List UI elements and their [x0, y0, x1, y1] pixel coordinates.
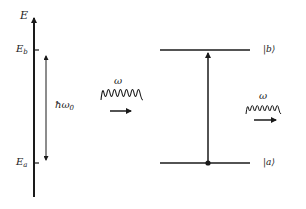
- lower-state-label: |a⟩: [263, 158, 275, 167]
- upper-level-energy-label: Eb: [16, 44, 28, 56]
- electron-dot: [205, 160, 210, 165]
- transition-arrow: [205, 53, 210, 166]
- incoming-photon-wave-icon: [101, 90, 143, 112]
- upper-state-label: |b⟩: [263, 45, 275, 54]
- outgoing-photon-frequency: ω: [259, 90, 267, 101]
- energy-axis-label-text: E: [20, 9, 28, 22]
- lower-state-ket: |a⟩: [263, 157, 275, 167]
- energy-gap-subscript: 0: [70, 104, 74, 112]
- upper-state-ket: |b⟩: [263, 44, 275, 54]
- lower-level-energy-subscript: a: [23, 161, 27, 169]
- incoming-photon-label: ω: [114, 76, 122, 86]
- outgoing-photon-label: ω: [259, 91, 267, 101]
- energy-gap-label: ħω0: [55, 100, 74, 112]
- lower-level-energy-label: Ea: [16, 157, 28, 169]
- energy-axis: [34, 18, 39, 197]
- upper-level-energy-subscript: b: [23, 48, 27, 56]
- energy-gap-symbol: ħω: [55, 99, 70, 110]
- energy-level-diagram: [0, 0, 306, 209]
- outgoing-photon-wave-icon: [246, 106, 281, 121]
- incoming-photon-frequency: ω: [114, 75, 122, 86]
- energy-axis-label: E: [20, 10, 28, 21]
